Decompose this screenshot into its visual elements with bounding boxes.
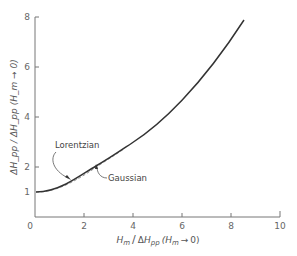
y-tick-4: 4: [24, 112, 30, 122]
x-tick-10: 10: [274, 221, 286, 231]
y-tick-8: 8: [24, 12, 30, 22]
y-axis-label: ΔH_pp / ΔH_pp (H_m → 0): [9, 59, 19, 175]
axes: [35, 17, 280, 217]
y-tick-6: 6: [24, 62, 30, 72]
x-tick-2: 2: [81, 221, 87, 231]
y-tick-2: 2: [24, 162, 30, 172]
lorentzian-curve: [36, 20, 244, 192]
x-tick-4: 4: [130, 221, 136, 231]
gaussian-label: Gaussian: [108, 173, 147, 183]
y-tick-1: 1: [24, 187, 30, 197]
svg-text:Hm/ΔHpp(Hm→0): Hm/ΔHpp(Hm→0): [116, 233, 199, 247]
x-tick-8: 8: [228, 221, 234, 231]
chart: 8 6 4 2 1 0 2 4 6 8 10 Lorentzian Gaussi…: [0, 0, 297, 256]
x-tick-6: 6: [179, 221, 185, 231]
x-tick-0: 0: [27, 221, 33, 231]
svg-text:ΔH_pp / ΔH_pp (H_m → 0): ΔH_pp / ΔH_pp (H_m → 0): [9, 59, 19, 175]
lorentzian-label: Lorentzian: [55, 140, 99, 150]
x-tick-labels: 0 2 4 6 8 10: [27, 221, 286, 231]
x-axis-label: Hm/ΔHpp(Hm→0): [116, 233, 199, 247]
lorentzian-annotation: Lorentzian: [53, 140, 100, 180]
gaussian-curve: [36, 149, 124, 192]
y-tick-labels: 8 6 4 2 1: [24, 12, 30, 197]
gaussian-annotation: Gaussian: [95, 164, 147, 183]
